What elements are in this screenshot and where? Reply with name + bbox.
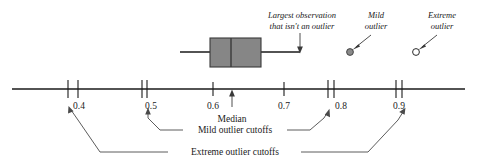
tick-label-2: 0.6 [207, 101, 219, 111]
tick-label-0: 0.4 [73, 101, 85, 111]
median-pointer [229, 90, 235, 108]
extreme-outlier-label-line1: Extreme [427, 10, 456, 20]
extreme-outlier-label-line2: outlier [431, 21, 454, 31]
tick-label-1: 0.5 [145, 101, 157, 111]
largest-observation-arrow [297, 33, 303, 54]
extreme-outlier-cutoffs-label: Extreme outlier cutoffs [191, 147, 279, 157]
largest-observation-label-line2: that isn't an outlier [270, 21, 336, 31]
interquartile-box [210, 38, 261, 67]
tick-label-3: 0.7 [278, 101, 290, 111]
tick-label-4: 0.8 [335, 101, 347, 111]
mild-outlier-arrow [353, 35, 371, 50]
extreme-outlier-arrow [419, 35, 437, 50]
mild-outlier-point [347, 49, 354, 56]
boxplot-glyph [180, 38, 300, 67]
largest-observation-label-line1: Largest observation [267, 10, 336, 20]
mild-outlier-label-line1: Mild [367, 10, 385, 20]
mild-outlier-cutoffs-label: Mild outlier cutoffs [198, 125, 273, 135]
mild-outlier-label-line2: outlier [365, 21, 388, 31]
boxplot-figure: Largest observation that isn't an outlie… [0, 0, 477, 163]
median-label: Median [217, 114, 246, 124]
extreme-outlier-point [413, 49, 420, 56]
